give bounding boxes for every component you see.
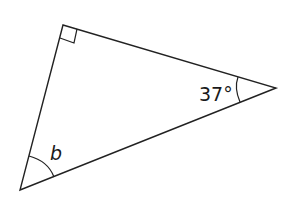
right-angle-marker [60,29,77,43]
triangle [20,25,276,190]
triangle-diagram: 37° b [0,0,295,202]
angle-label-b: b [50,142,62,164]
angle-label-37: 37° [199,83,233,105]
angle-arc-right [236,77,240,102]
